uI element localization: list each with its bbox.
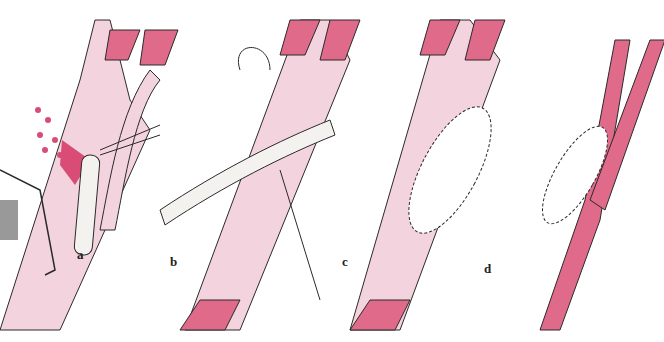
panel-d-artery (350, 20, 508, 330)
panel-final-artery (530, 40, 664, 330)
panel-label-d: d (484, 261, 491, 277)
panel-a-artery (0, 20, 178, 330)
panel-label-b: b (170, 254, 177, 270)
instrument-clamp (0, 200, 18, 240)
illustration-canvas (0, 0, 664, 342)
panel-label-a: a (77, 247, 84, 263)
panel-label-c: c (342, 254, 348, 270)
panel-c-artery (160, 20, 360, 330)
